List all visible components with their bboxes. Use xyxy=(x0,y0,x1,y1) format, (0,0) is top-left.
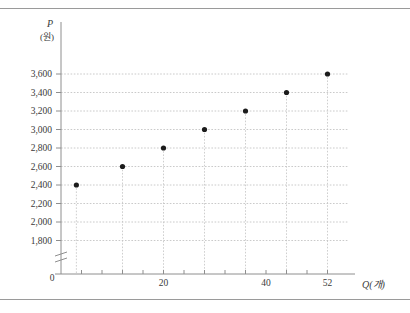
gridlines-group xyxy=(61,74,348,241)
y-axis-label: P xyxy=(46,18,53,29)
y-tick-label: 2,800 xyxy=(31,143,53,153)
y-tick-label: 3,400 xyxy=(31,88,53,98)
droplines-group xyxy=(76,74,327,274)
y-tick-label: 3,200 xyxy=(31,106,53,116)
y-axis-unit-label: (원) xyxy=(40,32,54,42)
data-point xyxy=(161,145,166,150)
y-tick-label: 3,000 xyxy=(31,125,53,135)
data-point xyxy=(74,182,79,187)
y-tick-label: 2,200 xyxy=(31,199,53,209)
y-tick-label: 3,600 xyxy=(31,69,53,79)
origin-label: 0 xyxy=(50,273,55,283)
y-tick-label: 2,600 xyxy=(31,162,53,172)
x-axis-label: Q(개) xyxy=(362,279,386,291)
data-point xyxy=(120,164,125,169)
chart-svg: 1,8002,0002,2002,4002,6002,8003,0003,200… xyxy=(0,0,410,313)
x-tick-label: 20 xyxy=(159,278,169,288)
figure-root: 1,8002,0002,2002,4002,6002,8003,0003,200… xyxy=(0,0,410,313)
scatter-chart: 1,8002,0002,2002,4002,6002,8003,0003,200… xyxy=(0,0,410,313)
data-point xyxy=(284,90,289,95)
y-tick-label: 2,400 xyxy=(31,180,53,190)
x-axis-ticks-group: 204052 xyxy=(82,270,333,288)
x-tick-label: 52 xyxy=(323,278,333,288)
data-point xyxy=(243,108,248,113)
y-tick-label: 1,800 xyxy=(31,236,53,246)
data-point xyxy=(325,71,330,76)
x-tick-label: 40 xyxy=(261,278,271,288)
y-tick-label: 2,000 xyxy=(31,217,53,227)
y-axis-ticks-group: 1,8002,0002,2002,4002,6002,8003,0003,200… xyxy=(31,69,61,246)
data-point xyxy=(202,127,207,132)
